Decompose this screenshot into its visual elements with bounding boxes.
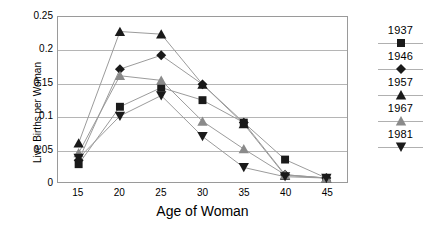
x-axis-tick-labels: 15202530354045 <box>57 188 348 202</box>
legend-label: 1981 <box>372 128 429 141</box>
chart-legend: 19371946195719671981 <box>372 24 429 154</box>
x-axis-tick-label: 25 <box>144 188 178 198</box>
data-point-marker <box>73 138 83 147</box>
legend-entry[interactable]: 1957 <box>372 76 429 102</box>
legend-entry[interactable]: 1937 <box>372 24 429 50</box>
legend-label: 1937 <box>372 24 429 37</box>
legend-marker-row <box>372 37 429 50</box>
legend-marker-icon <box>393 141 409 155</box>
y-axis-tick-label: 0.05 <box>1 145 53 155</box>
x-axis-tick-label: 15 <box>61 188 95 198</box>
legend-marker-glyph <box>397 39 405 47</box>
data-series-layer <box>58 17 347 182</box>
legend-marker-row <box>372 63 429 76</box>
legend-marker-glyph <box>395 90 405 99</box>
x-axis-tick-label: 40 <box>269 188 303 198</box>
legend-entry[interactable]: 1946 <box>372 50 429 76</box>
legend-marker-row <box>372 141 429 154</box>
legend-marker-glyph <box>395 143 405 152</box>
y-axis-tick-label: 0.2 <box>1 44 53 54</box>
series-markers <box>73 91 331 183</box>
data-point-marker <box>115 71 125 80</box>
x-axis-tick-label: 20 <box>102 188 136 198</box>
legend-label: 1946 <box>372 50 429 63</box>
y-axis-tick-label: 0.25 <box>1 11 53 21</box>
data-point-marker <box>116 103 124 111</box>
legend-marker-row <box>372 89 429 102</box>
legend-marker-glyph <box>395 116 405 125</box>
data-point-marker <box>197 132 207 141</box>
legend-entry[interactable]: 1981 <box>372 128 429 154</box>
data-point-marker <box>157 84 165 92</box>
x-axis-title: Age of Woman <box>57 203 348 219</box>
series-markers <box>73 27 331 183</box>
legend-marker-icon <box>393 115 409 129</box>
data-point-marker <box>239 163 249 172</box>
y-axis-tick-label: 0.1 <box>1 111 53 121</box>
y-axis-tick-label: 0 <box>1 178 53 188</box>
data-point-marker <box>156 50 166 60</box>
legend-entry[interactable]: 1967 <box>372 102 429 128</box>
legend-label: 1957 <box>372 76 429 89</box>
x-axis-tick-label: 35 <box>227 188 261 198</box>
x-axis-tick-label: 30 <box>186 188 220 198</box>
legend-marker-icon <box>393 63 409 77</box>
x-axis-tick-label: 45 <box>310 188 344 198</box>
series-line <box>79 32 327 179</box>
y-axis-tick-labels: 00.050.10.150.20.25 <box>0 16 53 183</box>
series-line <box>79 76 327 178</box>
data-point-marker <box>239 144 249 153</box>
legend-marker-icon <box>393 37 409 51</box>
data-point-marker <box>199 96 207 104</box>
data-point-marker <box>281 156 289 164</box>
y-axis-tick-label: 0.15 <box>1 78 53 88</box>
legend-marker-glyph <box>396 64 406 74</box>
chart-figure: Live Births per Woman 00.050.10.150.20.2… <box>0 0 429 241</box>
legend-marker-row <box>372 115 429 128</box>
legend-label: 1967 <box>372 102 429 115</box>
legend-marker-icon <box>393 89 409 103</box>
plot-area <box>57 16 348 183</box>
